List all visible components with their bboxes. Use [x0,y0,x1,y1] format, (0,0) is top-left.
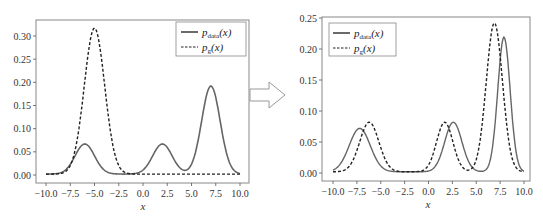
svg-text:0.20: 0.20 [300,44,318,55]
svg-text:0.00: 0.00 [14,170,32,181]
svg-text:10.0: 10.0 [515,186,533,197]
svg-text:−7.5: −7.5 [61,188,79,199]
svg-text:5.0: 5.0 [185,188,198,199]
right-legend-pg: pg(x) [353,42,376,56]
svg-text:0.0: 0.0 [422,186,435,197]
right-x-label: x [425,198,431,210]
right-y-axis: 0.000.050.100.150.200.25 [300,13,323,179]
svg-text:0.20: 0.20 [14,77,32,88]
right-legend: pdata(x) pg(x) [329,23,396,56]
svg-text:−7.5: −7.5 [348,186,366,197]
right-x-axis: −10.0−7.5−5.0−2.50.02.55.07.510.0 [321,181,532,197]
svg-text:7.5: 7.5 [210,188,223,199]
svg-text:0.15: 0.15 [14,100,32,111]
svg-text:−5.0: −5.0 [372,186,390,197]
left-legend-pg: pg(x) [201,41,224,55]
left-x-axis: −10.0−7.5−5.0−2.50.02.55.07.510.0 [34,183,248,199]
svg-text:0.0: 0.0 [137,188,150,199]
svg-text:0.10: 0.10 [14,123,32,134]
svg-text:−5.0: −5.0 [85,188,103,199]
left-x-label: x [140,200,146,212]
svg-text:2.5: 2.5 [446,186,459,197]
left-legend: pdata(x) pg(x) [176,22,246,56]
svg-text:0.00: 0.00 [300,168,318,179]
right-chart: 0.000.050.100.150.200.25 −10.0−7.5−5.0−2… [300,13,533,211]
svg-text:−2.5: −2.5 [110,188,128,199]
right-pdata-curve [333,37,524,172]
left-y-axis: 0.000.050.100.150.200.250.30 [14,31,37,181]
left-chart: 0.000.050.100.150.200.250.30 −10.0−7.5−5… [14,20,250,212]
svg-text:−10.0: −10.0 [321,186,344,197]
svg-text:2.5: 2.5 [161,188,174,199]
svg-text:0.05: 0.05 [300,137,318,148]
svg-text:0.05: 0.05 [14,146,32,157]
right-arrow-icon [250,82,285,108]
svg-text:7.5: 7.5 [494,186,507,197]
svg-text:−10.0: −10.0 [34,188,57,199]
svg-text:0.25: 0.25 [14,54,32,65]
svg-text:10.0: 10.0 [231,188,249,199]
svg-text:5.0: 5.0 [470,186,483,197]
svg-text:0.15: 0.15 [300,75,318,86]
svg-text:−2.5: −2.5 [396,186,414,197]
svg-text:0.30: 0.30 [14,31,32,42]
svg-text:0.10: 0.10 [300,106,318,117]
svg-text:0.25: 0.25 [300,13,318,24]
left-pdata-curve [46,86,240,174]
